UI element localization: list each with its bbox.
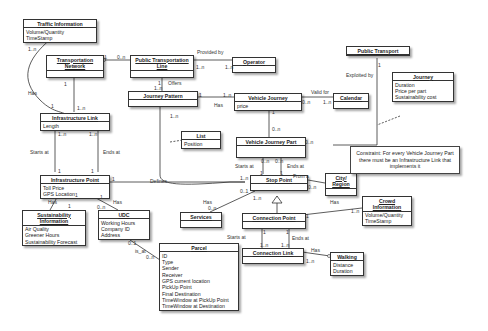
class-connection-point[interactable]: Connection Point xyxy=(242,213,306,229)
multiplicity: 1..n xyxy=(240,175,248,181)
multiplicity: 1 xyxy=(272,109,275,115)
class-name: Journey xyxy=(393,73,453,81)
class-traffic-information[interactable]: Traffic Information Volume/QuantityTimeS… xyxy=(23,19,97,43)
class-name: Connection Link xyxy=(243,249,303,257)
class-name: Transportation Network xyxy=(47,56,103,71)
class-name: Calendar xyxy=(334,94,368,102)
multiplicity: 1..n xyxy=(260,242,268,248)
class-parcel[interactable]: Parcel ID Type Sender Receiver GPS curre… xyxy=(159,243,239,311)
multiplicity: 1 xyxy=(64,81,67,87)
multiplicity: 1..n xyxy=(58,131,66,137)
multiplicity: 0..n xyxy=(208,205,216,211)
multiplicity: 0..n xyxy=(261,158,269,164)
multiplicity: 0..n xyxy=(117,54,125,60)
class-name: Walking xyxy=(331,253,363,261)
multiplicity: 0..n xyxy=(305,139,313,145)
multiplicity: 0..1 xyxy=(128,240,136,246)
class-sustainability-information[interactable]: Sustainability Information Air QualityGr… xyxy=(22,210,86,246)
attribute: Sustainability Forecast xyxy=(25,239,83,245)
multiplicity: 1 xyxy=(199,92,202,98)
class-name: Infrastructure Point xyxy=(41,176,109,184)
class-calendar[interactable]: Calendar xyxy=(333,93,369,109)
class-name: Vehicle Journey Part xyxy=(237,138,305,146)
multiplicity: 1 xyxy=(51,103,54,109)
multiplicity: 1..n xyxy=(281,242,289,248)
class-connection-link[interactable]: Connection Link xyxy=(242,248,304,264)
class-name: Journey Pattern xyxy=(129,92,197,100)
class-crowd-information[interactable]: Crowd Information Volume/QuantityTimeSta… xyxy=(362,196,412,226)
multiplicity: 1..n xyxy=(351,208,359,214)
label-from-a: From a xyxy=(293,173,309,179)
class-udc[interactable]: UDC Working HoursCompany IDAddress xyxy=(98,210,150,240)
multiplicity: 0..n xyxy=(308,184,316,190)
label-ends-at: Ends at xyxy=(103,149,120,155)
multiplicity: 1 xyxy=(112,176,115,182)
class-walking[interactable]: Walking DistanceDuration xyxy=(330,252,364,276)
label-exploited-by: Exploited by xyxy=(346,72,373,78)
multiplicity: 1..n xyxy=(154,85,162,91)
class-name: Public Transport xyxy=(347,47,409,55)
class-name: Sustainability Information xyxy=(23,211,85,226)
label-ends-at: Ends at xyxy=(287,163,304,169)
class-name: Operator xyxy=(233,58,275,66)
label-defines: Defines xyxy=(150,178,167,184)
class-name: Connection Point xyxy=(243,214,305,222)
label-starts-at: Starts at xyxy=(30,149,49,155)
attribute: TimeStamp xyxy=(365,218,409,224)
multiplicity: 1..n xyxy=(323,99,331,105)
class-name: List xyxy=(182,132,220,140)
class-name: Traffic Information xyxy=(24,20,96,28)
multiplicity: 1 xyxy=(58,168,61,174)
label-valid-for: Valid for xyxy=(311,89,329,95)
attribute: Sustainability cost xyxy=(395,94,451,100)
label-provided-by: Provided by xyxy=(197,49,223,55)
multiplicity: 1 xyxy=(286,229,289,235)
class-journey-pattern[interactable]: Journey Pattern xyxy=(128,91,198,107)
multiplicity: 0..1 xyxy=(240,188,248,194)
label-has: Has xyxy=(28,90,37,96)
multiplicity: 1 xyxy=(306,213,309,219)
class-name: UDC xyxy=(99,211,149,219)
class-operator[interactable]: Operator xyxy=(232,57,276,73)
multiplicity: 1 xyxy=(280,170,283,176)
class-list[interactable]: List Position xyxy=(181,131,221,149)
class-public-transport[interactable]: Public Transport xyxy=(346,46,410,56)
multiplicity: 0..n xyxy=(272,126,280,132)
class-city-region[interactable]: City/ Region xyxy=(325,173,357,196)
class-journey[interactable]: Journey DurationPrice per partSustainabi… xyxy=(392,72,454,102)
class-public-transportation-line[interactable]: Public Transportation Line xyxy=(130,55,194,78)
label-is-at: is_at xyxy=(135,248,146,254)
label-offers: Offers xyxy=(168,80,182,86)
multiplicity: 1 xyxy=(75,192,78,198)
label-ends-at: Ends at xyxy=(292,235,309,241)
class-name: Vehicle Journey xyxy=(235,94,301,102)
class-services[interactable]: Services xyxy=(180,212,222,228)
multiplicity: 0..n xyxy=(275,158,283,164)
class-transportation-network[interactable]: Transportation Network xyxy=(46,55,104,78)
attribute: TimeWindow at Destination xyxy=(162,303,236,309)
class-vehicle-journey[interactable]: Vehicle Journey price xyxy=(234,93,302,111)
class-name: City/ Region xyxy=(326,174,356,189)
multiplicity: 1..n xyxy=(89,131,97,137)
label-has: Has xyxy=(48,199,57,205)
class-infrastructure-link[interactable]: Infrastructure Link Length xyxy=(40,113,110,131)
multiplicity: 1..n xyxy=(225,64,233,70)
class-vehicle-journey-part[interactable]: Vehicle Journey Part xyxy=(236,137,306,158)
constraint-note: Constraint: For every Vehicle Journey Pa… xyxy=(350,146,460,174)
class-name: Parcel xyxy=(160,244,238,252)
class-name: Public Transportation Line xyxy=(131,56,193,71)
attribute: TimeStamp xyxy=(26,35,94,41)
multiplicity: 1 xyxy=(263,229,266,235)
label-has: Has xyxy=(330,199,339,205)
label-has: Has xyxy=(113,199,122,205)
attribute: Address xyxy=(101,232,147,238)
multiplicity: 1..n xyxy=(28,46,36,52)
multiplicity: 1..n xyxy=(253,195,261,201)
attribute: price xyxy=(237,103,299,109)
multiplicity: 1 xyxy=(260,170,263,176)
multiplicity: 1..n xyxy=(170,113,178,119)
multiplicity: 1..n xyxy=(306,258,314,264)
multiplicity: 1..n xyxy=(196,64,204,70)
multiplicity: 1 xyxy=(100,194,103,200)
multiplicity: 0..n xyxy=(97,204,105,210)
